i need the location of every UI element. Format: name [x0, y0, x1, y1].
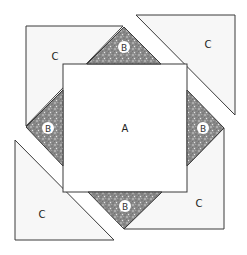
quilt-block-diagram: C C C C A B: [0, 0, 247, 255]
piece-label: A: [122, 123, 129, 134]
piece-label: B: [121, 43, 127, 53]
piece-label: C: [52, 51, 59, 62]
piece-label: C: [39, 209, 46, 220]
diagram-canvas: C C C C A B: [0, 0, 247, 255]
piece-label: C: [205, 39, 212, 50]
piece-label: B: [122, 202, 128, 212]
piece-label: C: [196, 198, 203, 209]
piece-label: B: [45, 124, 51, 134]
piece-a-center: A: [63, 64, 187, 192]
piece-label: B: [200, 124, 206, 134]
